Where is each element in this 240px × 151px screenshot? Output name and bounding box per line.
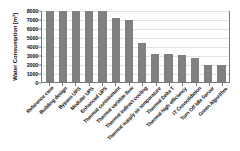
bar-slot: [43, 12, 56, 82]
bar-slot: [83, 12, 96, 82]
y-tick-label: 6000: [27, 26, 38, 32]
bar-slot: [96, 12, 109, 82]
bar-slot: [69, 12, 82, 82]
y-tick-label: 5000: [27, 35, 38, 41]
bar: [112, 18, 120, 82]
bar-slot: [149, 12, 162, 82]
y-tick-label: 2000: [27, 62, 38, 68]
bar-slot: [162, 12, 175, 82]
water-consumption-bar-chart: Water Consumption [m³] 80007000600050004…: [0, 0, 240, 151]
bar: [151, 54, 159, 82]
bar-slot: [122, 12, 135, 82]
bar-slot: [188, 12, 201, 82]
y-tick-label: 3000: [27, 53, 38, 59]
y-axis-tick-labels: 800070006000500040003000200010000: [0, 11, 41, 83]
bar: [125, 20, 133, 82]
bar: [46, 11, 54, 82]
y-tick-label: 7000: [27, 17, 38, 23]
y-tick-label: 8000: [27, 8, 38, 14]
bar: [138, 43, 146, 82]
bar-slot: [215, 12, 228, 82]
bar: [72, 11, 80, 82]
plot-area: [41, 11, 230, 83]
bar: [98, 11, 106, 82]
y-tick-label: 4000: [27, 44, 38, 50]
bar: [85, 11, 93, 82]
bar-slot: [109, 12, 122, 82]
bar-slot: [136, 12, 149, 82]
bar-slot: [56, 12, 69, 82]
x-axis-tick-labels: Reference caseBuilding designBypass UPSM…: [41, 84, 230, 148]
bar: [217, 65, 225, 82]
bar: [178, 55, 186, 82]
y-tick-label: 1000: [27, 71, 38, 77]
bar: [204, 65, 212, 82]
bar-series: [42, 12, 229, 82]
bar: [191, 58, 199, 82]
bar-slot: [175, 12, 188, 82]
bar: [164, 54, 172, 82]
bar-slot: [202, 12, 215, 82]
bar: [59, 11, 67, 82]
